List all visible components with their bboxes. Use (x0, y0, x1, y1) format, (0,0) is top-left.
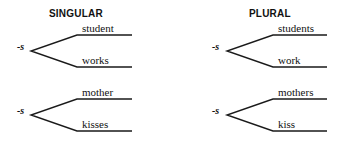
agreement-diagram: SINGULAR PLURAL -s student works -s stud… (0, 0, 344, 141)
lower-word: work (278, 55, 301, 66)
upper-word: mother (82, 87, 113, 98)
branch-plural-bottom (227, 99, 327, 131)
upper-word: student (82, 23, 114, 34)
upper-word: mothers (278, 87, 313, 98)
suffix-marker: -s (17, 42, 24, 52)
suffix-marker: -s (212, 106, 219, 116)
lower-word: works (82, 55, 109, 66)
heading-singular: SINGULAR (49, 8, 103, 19)
heading-plural: PLURAL (249, 8, 291, 19)
suffix-marker: -s (17, 106, 24, 116)
lower-word: kisses (82, 119, 108, 130)
upper-word: students (278, 23, 314, 34)
branch-plural-top (227, 35, 327, 67)
lower-word: kiss (278, 119, 295, 130)
suffix-marker: -s (212, 42, 219, 52)
